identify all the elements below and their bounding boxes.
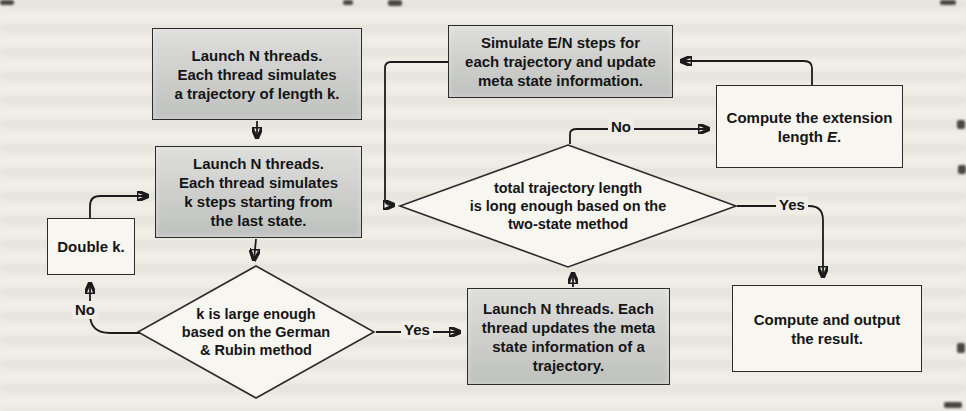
node-compute-output: Compute and output the result. [732,285,922,372]
node-launch-update-text: Launch N threads. Each thread updates th… [482,299,655,375]
label-yes-left: Yes [401,321,433,339]
node-double-k: Double k. [47,218,135,275]
node-launch-update: Launch N threads. Each thread updates th… [467,288,670,385]
node-simulate-steps-text: Simulate E/N steps for each trajectory a… [465,33,656,90]
extension-line2-prefix: length [778,128,827,145]
node-compute-extension-text: Compute the extension length E. [727,108,893,146]
extension-line2-suffix: . [837,128,841,145]
edge-ksteps-to-german-rubin [254,239,256,260]
edge-two-state-no-to-extension [570,129,709,144]
label-no-right: No [608,118,634,136]
node-launch-trajectory-text: Launch N threads. Each thread simulates … [174,46,339,103]
label-yes-right: Yes [776,196,808,214]
node-compute-extension: Compute the extension length E. [716,85,903,168]
decision-two-state-text: total trajectory length is long enough b… [448,178,688,234]
extension-line1: Compute the extension [727,109,893,126]
node-launch-trajectory: Launch N threads. Each thread simulates … [152,28,362,120]
edge-two-state-yes-to-output [737,206,823,277]
label-no-left: No [72,301,98,319]
edge-double-k-to-ksteps [90,196,148,218]
node-double-k-text: Double k. [57,237,125,256]
extension-variable-e: E [827,128,837,145]
decision-german-rubin-text: k is large enough based on the German & … [156,300,356,364]
node-simulate-steps: Simulate E/N steps for each trajectory a… [448,25,673,98]
edge-simulate-to-two-state [385,62,448,205]
edge-extension-to-simulate [681,61,812,85]
node-launch-k-steps: Launch N threads. Each thread simulates … [155,146,362,238]
node-launch-k-steps-text: Launch N threads. Each thread simulates … [179,154,338,230]
node-compute-output-text: Compute and output the result. [754,310,901,348]
scanned-figure-page: Launch N threads. Each thread simulates … [0,0,966,411]
